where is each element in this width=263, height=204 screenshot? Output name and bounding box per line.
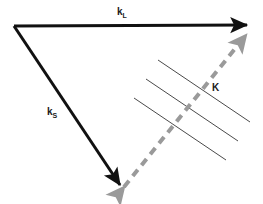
scattering-vector-diagram: kL kS K xyxy=(0,0,263,204)
diagram-background xyxy=(0,0,263,204)
diagram-canvas xyxy=(0,0,263,204)
vector-label-K-symbol: K xyxy=(212,82,219,93)
vector-kL-arrow xyxy=(14,25,247,26)
vector-label-kS: kS xyxy=(47,107,57,119)
vector-label-kL: kL xyxy=(117,7,127,19)
vector-label-kL-subscript: L xyxy=(123,12,127,19)
vector-label-K: K xyxy=(212,83,219,93)
vector-label-kS-subscript: S xyxy=(53,112,58,119)
